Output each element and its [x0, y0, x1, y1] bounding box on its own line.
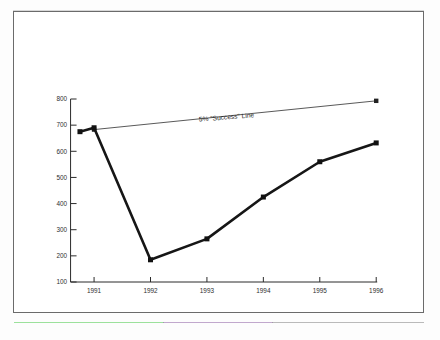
y-tick-label: 400 — [56, 200, 67, 207]
x-axis-ticks — [94, 277, 376, 282]
data-point-marker — [317, 159, 322, 164]
x-tick-label: 1993 — [200, 287, 215, 294]
y-tick-label: 500 — [56, 174, 67, 181]
y-axis-tick-labels: 100200300400500600700800 — [56, 95, 67, 285]
data-point-marker — [261, 195, 266, 200]
data-point-marker — [374, 140, 379, 145]
data-point-marker — [204, 236, 209, 241]
chart-page: 100200300400500600700800 199119921993199… — [0, 0, 440, 340]
data-point-marker — [374, 99, 378, 103]
x-tick-label: 1996 — [369, 287, 384, 294]
data-point-marker — [77, 129, 82, 134]
x-tick-label: 1991 — [87, 287, 102, 294]
y-tick-label: 700 — [56, 121, 67, 128]
chart-svg: 100200300400500600700800 199119921993199… — [0, 0, 440, 340]
x-tick-label: 1995 — [313, 287, 328, 294]
data-point-marker — [92, 125, 97, 130]
y-tick-label: 200 — [56, 252, 67, 259]
y-tick-label: 800 — [56, 95, 67, 102]
y-tick-label: 600 — [56, 148, 67, 155]
x-tick-label: 1992 — [143, 287, 158, 294]
y-tick-label: 100 — [56, 278, 67, 285]
main-line-series — [80, 128, 376, 260]
y-tick-label: 300 — [56, 226, 67, 233]
x-tick-label: 1994 — [256, 287, 271, 294]
y-axis-ticks — [71, 99, 77, 282]
success-line-label: 5% "Success" Line — [199, 111, 255, 122]
data-point-marker — [148, 257, 153, 262]
x-axis-tick-labels: 199119921993199419951996 — [87, 287, 384, 294]
line-chart: 100200300400500600700800 199119921993199… — [0, 0, 440, 340]
chart-annotations: 5% "Success" Line — [199, 111, 255, 122]
